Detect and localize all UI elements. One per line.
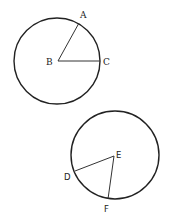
label-d: D	[64, 172, 71, 182]
radius-ed	[75, 156, 114, 171]
label-a: A	[79, 10, 87, 20]
label-e: E	[116, 150, 121, 160]
circle-two-group: E D F	[64, 111, 159, 212]
label-c: C	[103, 57, 110, 67]
circle-one-group: A B C	[14, 10, 110, 104]
radius-ef	[108, 156, 114, 199]
circle-two	[71, 111, 159, 199]
geometry-diagram: A B C E D F	[0, 0, 169, 212]
label-b: B	[46, 57, 53, 67]
radius-ba	[58, 23, 79, 61]
label-f: F	[104, 204, 109, 212]
